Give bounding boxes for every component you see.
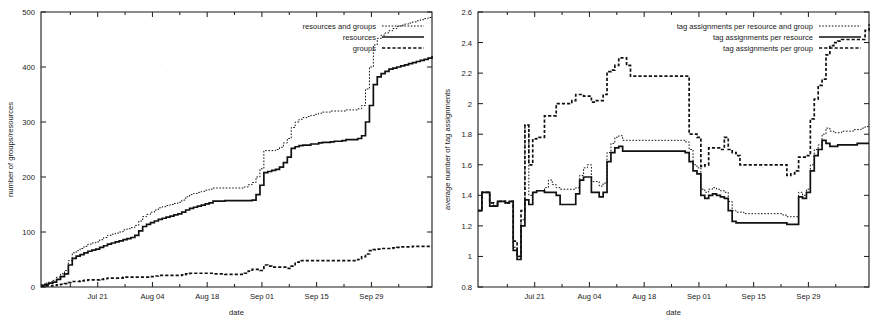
y-axis-title: number of groups/resources [6,102,15,197]
x-tick-label: Sep 15 [305,292,329,301]
legend-label: resources and groups [303,22,377,31]
y-tick-label: 1 [468,252,472,261]
x-tick-label: Sep 15 [742,292,766,301]
x-tick-label: Jul 21 [88,292,108,301]
chart-svg: 0.811.21.41.61.822.22.42.6Jul 21Aug 04Au… [437,0,874,325]
legend-label: resources [343,33,377,42]
series-line [478,140,869,259]
x-tick-label: Aug 04 [577,292,601,301]
y-tick-label: 2.2 [461,69,472,78]
y-tick-label: 200 [22,173,35,182]
series-line [41,56,432,285]
y-tick-label: 500 [22,8,35,17]
y-tick-label: 1.6 [461,161,472,170]
y-tick-label: 1.4 [461,191,472,200]
y-tick-label: 100 [22,228,35,237]
legend-label: tag assignments per resource and group [677,22,813,31]
x-tick-label: Jul 21 [525,292,545,301]
y-tick-label: 2 [468,100,472,109]
x-tick-label: Aug 18 [195,292,219,301]
figure-root: .· ,' ·. · . · , · ·, 0100200300400500Ju… [0,0,874,325]
legend-label: tag assignments per resource [713,33,813,42]
y-tick-label: 0 [31,283,35,292]
series-line [41,246,432,286]
x-tick-label: Sep 01 [250,292,274,301]
y-tick-label: 1.8 [461,130,472,139]
chart-panel-left: 0100200300400500Jul 21Aug 04Aug 18Sep 01… [0,0,437,325]
x-tick-label: Sep 01 [687,292,711,301]
y-tick-label: 2.4 [461,39,472,48]
series-line [478,24,869,256]
y-tick-label: 1.2 [461,222,472,231]
x-axis-title: date [229,308,244,317]
y-tick-label: 400 [22,63,35,72]
x-tick-label: Aug 04 [140,292,164,301]
x-tick-label: Sep 29 [796,292,820,301]
legend-label: tag assignments per group [723,44,813,53]
x-tick-label: Aug 18 [632,292,656,301]
chart-svg: 0100200300400500Jul 21Aug 04Aug 18Sep 01… [0,0,437,325]
chart-panel-right: 0.811.21.41.61.822.22.42.6Jul 21Aug 04Au… [437,0,874,325]
series-line [41,16,432,284]
y-tick-label: 300 [22,118,35,127]
legend-label: groups [353,44,376,53]
y-tick-label: 2.6 [461,8,472,17]
x-tick-label: Sep 29 [359,292,383,301]
x-axis-title: date [666,308,681,317]
y-axis-title: average number of tag assignments [443,89,452,210]
y-tick-label: 0.8 [461,283,472,292]
